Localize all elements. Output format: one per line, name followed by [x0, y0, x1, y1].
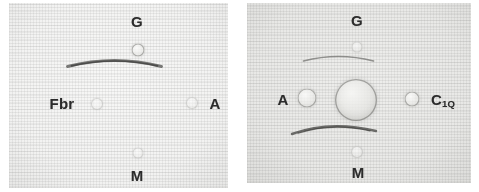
label-c1q-subscript: 1Q	[442, 98, 455, 109]
label-fbr: Fbr	[50, 96, 75, 111]
label-c1q: C1Q	[431, 92, 455, 107]
well-g-right	[352, 42, 363, 53]
well-a-right	[298, 89, 317, 108]
label-g: G	[131, 14, 143, 29]
label-c1q-base: C	[431, 91, 442, 108]
well-center	[335, 79, 377, 121]
label-m: M	[131, 168, 144, 183]
label-g-right: G	[351, 13, 363, 28]
left-gel-panel: G Fbr A M	[9, 3, 228, 188]
well-a	[186, 97, 198, 109]
well-c1q	[405, 92, 420, 107]
well-m	[133, 148, 144, 159]
well-fbr	[91, 98, 103, 110]
immunodiffusion-figure: G Fbr A M G A C1Q M	[0, 0, 479, 192]
gel-background-left	[9, 3, 228, 188]
label-a-right: A	[277, 92, 288, 107]
label-m-right: M	[352, 165, 365, 180]
label-a: A	[209, 96, 220, 111]
well-g	[132, 44, 145, 57]
well-m-right	[351, 146, 363, 158]
